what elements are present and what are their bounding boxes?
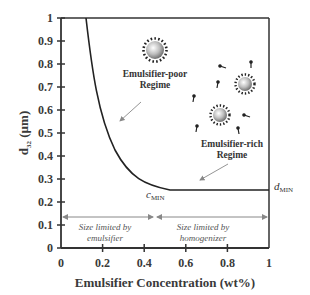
- emulsifier-rich-label-1: Emulsifier-rich: [201, 139, 264, 149]
- x-tick-label: 0.4: [137, 256, 152, 270]
- c-min-label: cMIN: [146, 188, 165, 202]
- y-tick-label: 0.9: [38, 34, 53, 48]
- right-region-label-2: homogenizer: [180, 233, 227, 243]
- emulsion-droplet-icon: [236, 75, 255, 94]
- free-emulsifier-molecules: [193, 61, 252, 134]
- plot-frame: [61, 18, 269, 248]
- y-tick-label: 0: [47, 241, 53, 255]
- y-tick-label: 0.1: [38, 218, 53, 232]
- x-tick-label: 0: [58, 256, 64, 270]
- y-axis-label: d32 (µm): [16, 111, 33, 155]
- y-tick-label: 0.7: [38, 80, 53, 94]
- y-tick-label: 0.8: [38, 57, 53, 71]
- emulsion-droplet-icon: [144, 39, 167, 62]
- emulsion-droplet-icon: [211, 106, 230, 125]
- y-tick-label: 0.3: [38, 172, 53, 186]
- left-region-label-1: Size limited by: [79, 222, 132, 232]
- emulsifier-rich-arrow: [200, 164, 228, 180]
- y-tick-label: 1: [47, 11, 53, 25]
- chart: 0 0.1 0.2 0.3 0.4 0.5 0.6 0.7 0.8 0.9 1 …: [0, 0, 310, 295]
- right-region-label-1: Size limited by: [177, 222, 230, 232]
- emulsifier-poor-arrow: [120, 102, 141, 121]
- x-tick-label: 1: [266, 256, 272, 270]
- y-tick-label: 0.2: [38, 195, 53, 209]
- emulsifier-rich-label-2: Regime: [217, 150, 248, 160]
- d-min-label: dMIN: [274, 180, 293, 194]
- d32-curve: [86, 18, 269, 190]
- x-axis-label: Emulsifier Concentration (wt%): [75, 275, 255, 290]
- x-tick-label: 0.2: [95, 256, 110, 270]
- emulsifier-poor-label-1: Emulsifier-poor: [123, 69, 188, 79]
- emulsifier-poor-label-2: Regime: [140, 80, 171, 90]
- x-tick-label: 0.6: [178, 256, 193, 270]
- y-tick-label: 0.4: [38, 149, 53, 163]
- y-tick-label: 0.6: [38, 103, 53, 117]
- y-tick-label: 0.5: [38, 126, 53, 140]
- left-region-label-2: emulsifier: [87, 233, 123, 243]
- x-tick-label: 0.8: [220, 256, 235, 270]
